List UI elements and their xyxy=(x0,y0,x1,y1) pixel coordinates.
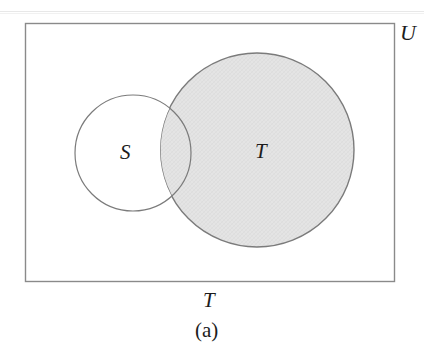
venn-diagram-figure: S T U T (a) xyxy=(0,0,424,355)
set-label-T: T xyxy=(255,141,267,162)
subfigure-caption: (a) xyxy=(195,320,218,341)
universe-label-U: U xyxy=(400,22,416,44)
set-label-S: S xyxy=(120,142,131,163)
figure-bottom-label: T xyxy=(203,290,215,311)
